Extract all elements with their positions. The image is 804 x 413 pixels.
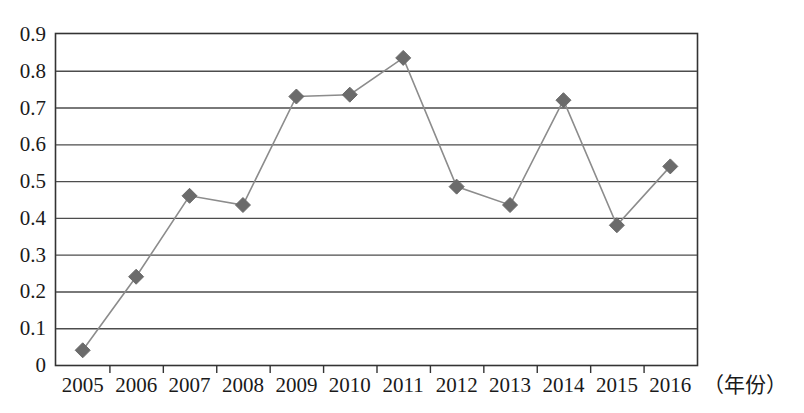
- plot-area-border: [56, 34, 698, 366]
- y-axis-tick-labels: 00.10.20.30.40.50.60.70.80.9: [20, 22, 47, 377]
- y-axis-tick-label: 0: [36, 353, 47, 377]
- y-axis-tick-label: 0.1: [20, 316, 46, 340]
- x-axis-tick-label: 2006: [115, 373, 157, 397]
- y-axis-tick-label: 0.6: [20, 132, 46, 156]
- x-axis-tick-label: 2008: [222, 373, 264, 397]
- x-axis-tick-label: 2015: [596, 373, 638, 397]
- x-axis-tick-label: 2012: [436, 373, 478, 397]
- y-axis-tick-label: 0.5: [20, 169, 46, 193]
- x-axis-tick-labels: 2005200620072008200920102011201220132014…: [62, 373, 692, 397]
- y-axis-tick-label: 0.9: [20, 22, 46, 46]
- y-axis-tick-label: 0.3: [20, 243, 46, 267]
- y-axis-tick-label: 0.8: [20, 59, 46, 83]
- y-axis-tick-label: 0.7: [20, 96, 46, 120]
- x-axis-tick-label: 2013: [489, 373, 531, 397]
- x-axis-tick-label: 2009: [275, 373, 317, 397]
- x-axis-tick-label: 2005: [62, 373, 104, 397]
- x-axis-tick-label: 2014: [542, 373, 585, 397]
- y-axis-tick-label: 0.2: [20, 279, 46, 303]
- x-axis-tick-label: 2010: [329, 373, 371, 397]
- line-chart: 00.10.20.30.40.50.60.70.80.9 20052006200…: [0, 0, 804, 413]
- x-axis-caption: （年份）: [703, 373, 787, 397]
- y-axis-tick-label: 0.4: [20, 206, 47, 230]
- x-axis-tick-label: 2011: [383, 373, 424, 397]
- x-axis-tick-label: 2016: [649, 373, 691, 397]
- chart-figure: 00.10.20.30.40.50.60.70.80.9 20052006200…: [0, 0, 804, 413]
- x-axis-tick-label: 2007: [169, 373, 211, 397]
